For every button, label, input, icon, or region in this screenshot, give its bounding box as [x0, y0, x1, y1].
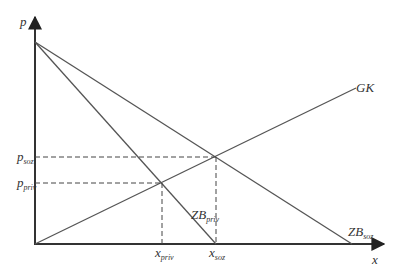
curve-zb-priv [35, 42, 216, 244]
y-tick-p-soz: psoz [16, 149, 35, 166]
x-axis-label: x [371, 252, 378, 267]
curve-label-zb-soz: ZBsoz [348, 224, 374, 241]
y-axis-label: p [19, 14, 27, 29]
x-tick-x-priv: xpriv [154, 245, 174, 262]
x-tick-x-soz: xsoz [208, 245, 226, 262]
y-tick-p-priv: ppriv [16, 175, 37, 192]
economics-diagram: p x GK ZBpriv ZBsoz psoz ppriv xpriv xso… [0, 0, 401, 268]
curve-label-zb-priv: ZBpriv [191, 207, 220, 224]
curve-label-gk: GK [356, 80, 375, 95]
